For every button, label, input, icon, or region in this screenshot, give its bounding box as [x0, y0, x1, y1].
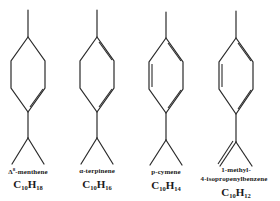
molecular-formula-alpha-terpinene: C10H16: [82, 178, 112, 191]
compound-name-alpha-terpinene: α-terpinene: [79, 167, 115, 175]
structure-1-methyl-4-isopropenylbenzene: [218, 11, 253, 166]
compound-name-4-isopropenylbenzene: 4-isopropenylbenzene: [201, 175, 268, 183]
molecular-formula-delta8-menthene: C10H18: [13, 178, 43, 191]
structure-alpha-terpinene: [80, 10, 114, 164]
molecular-formula-1-methyl-4-isopropenylbenzene: C10H12: [221, 186, 251, 199]
name-text: -menthene: [15, 168, 47, 176]
compound-name-p-cymene: p-cymene: [151, 168, 181, 176]
structure-p-cymene: [149, 12, 183, 165]
compound-name-delta8-menthene: Δ8-menthene: [8, 167, 48, 176]
molecular-formula-p-cymene: C10H14: [151, 179, 181, 192]
structure-delta8-menthene: [11, 10, 45, 164]
compound-name-1-methyl: 1-methyl-: [221, 166, 251, 174]
